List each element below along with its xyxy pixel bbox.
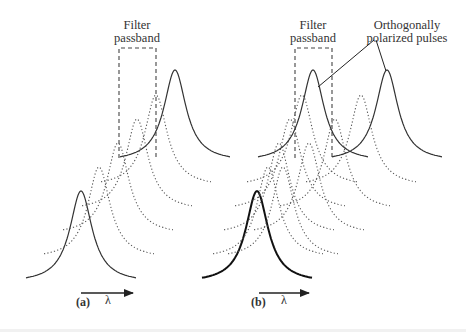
annotation-leader-line [318,40,374,87]
pulse-spectrum [26,191,136,278]
filter-label-b-line1: Filter [299,18,327,32]
annotation-leaders [318,40,386,87]
pulse-spectrum-dotted [306,95,416,182]
filter-passband-outline [295,48,332,158]
pulse-spectrum [258,70,368,157]
pulse-spectrum-dotted [228,167,338,254]
pulse-spectrum-dotted [82,119,192,206]
pulse-spectrum-dotted [44,167,154,254]
panel-b: Filter passband Orthogonally polarized p… [202,18,448,309]
filter-label-a-line2: passband [114,31,161,45]
panel-a: Filter passband (a) λ [26,18,230,309]
pulse-spectrum [332,70,442,157]
panel-label-a: (a) [76,295,90,309]
lambda-label-a: λ [105,293,111,307]
orthogonal-label-line1: Orthogonally [374,18,441,32]
pulse-spectrum [120,70,230,157]
pulse-filter-diagram: Filter passband (a) λ Filter passband Or… [0,0,466,332]
pulses-b [202,70,442,278]
pulses-a [26,70,230,278]
pulse-spectrum-dotted [280,119,390,206]
filter-passband-box-b [295,48,332,158]
lambda-label-b: λ [281,293,287,307]
filter-label-b-line2: passband [290,31,337,45]
orthogonal-label-line2: polarized pulses [367,31,448,45]
pulse-spectrum-dotted [101,95,211,182]
pulse-spectrum-dotted [235,119,345,206]
pulse-spectrum-dotted [254,143,364,230]
filter-label-a-line1: Filter [123,18,151,32]
panel-label-b: (b) [251,295,266,309]
